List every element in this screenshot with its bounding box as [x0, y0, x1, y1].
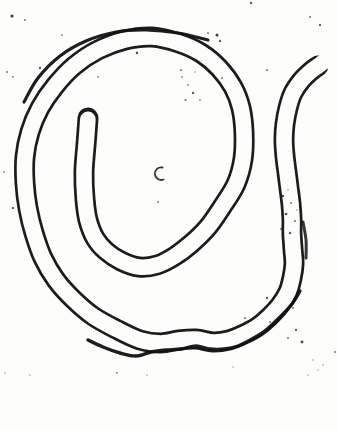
scan-speckle: [287, 337, 289, 339]
scan-speckle: [334, 351, 336, 353]
scan-speckle: [24, 19, 26, 21]
scan-speckle: [319, 24, 321, 26]
scan-speckle: [3, 171, 5, 173]
scan-speckle: [301, 341, 304, 344]
scan-speckle: [187, 84, 189, 86]
scan-speckle: [136, 52, 138, 54]
scan-speckle: [181, 76, 183, 78]
scan-speckle: [232, 366, 234, 368]
scan-speckle: [39, 67, 41, 69]
scan-speckle: [12, 76, 14, 78]
scan-speckle: [116, 372, 118, 374]
scan-speckle: [12, 207, 14, 209]
scan-speckle: [287, 189, 289, 191]
scan-speckle: [322, 364, 324, 366]
scan-speckle: [250, 2, 252, 4]
scan-speckle: [6, 71, 8, 73]
scan-speckle: [295, 329, 297, 331]
scan-speckle: [282, 195, 284, 197]
scan-speckle: [266, 297, 268, 299]
scan-speckle: [219, 40, 221, 42]
scan-speckle: [4, 372, 6, 374]
scan-speckle: [312, 359, 314, 361]
scanned-figure-page: [0, 0, 337, 431]
scan-speckle: [157, 201, 159, 203]
scan-speckle: [61, 34, 63, 36]
scan-speckle: [194, 71, 196, 73]
scan-speckle: [207, 32, 209, 34]
scan-speckle: [29, 374, 31, 376]
scan-speckle: [269, 321, 271, 323]
scan-speckle: [146, 374, 148, 376]
scan-speckle: [10, 14, 13, 17]
scan-speckle: [296, 209, 298, 211]
scan-speckle: [216, 34, 219, 37]
scan-speckle: [221, 77, 223, 79]
scan-speckle: [309, 16, 311, 18]
scan-speckle: [290, 202, 292, 204]
scan-speckle: [280, 228, 282, 230]
scan-speckle: [244, 317, 246, 319]
scan-speckle: [285, 213, 288, 216]
scan-speckle: [266, 69, 268, 71]
scan-speckle: [184, 99, 186, 101]
scan-speckle: [97, 76, 99, 78]
scan-speckle: [307, 374, 309, 376]
scan-speckle: [199, 99, 201, 101]
scan-speckle: [192, 92, 194, 94]
scan-speckle: [292, 307, 294, 309]
scan-speckle: [317, 369, 319, 371]
scan-speckle: [294, 220, 296, 222]
scan-speckle: [289, 232, 291, 234]
worm-line-drawing: [0, 0, 337, 431]
scan-speckle: [180, 69, 182, 71]
